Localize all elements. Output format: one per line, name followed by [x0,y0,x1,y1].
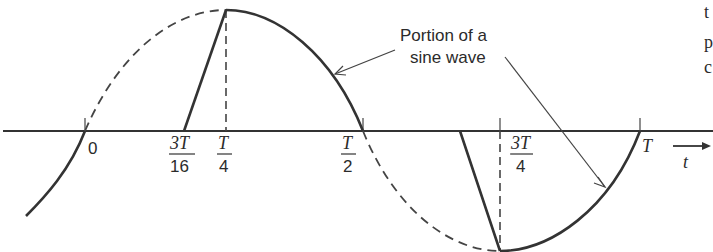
tick-label-zero: 0 [88,139,97,158]
time-axis-label: t [683,152,689,172]
annotation-pointer-left [335,50,395,74]
tick-label-3T16-num: 3T [169,133,191,153]
tick-label-3T16-den: 16 [170,157,189,176]
margin-fragment-1: t [704,2,709,22]
tick-label-T2-num: T [342,133,354,153]
time-arrow-icon [702,142,711,150]
tick-label-T2-den: 2 [343,157,352,176]
steep-fall-line [460,131,500,251]
tick-label-T: T [642,136,654,156]
tick-label-T4-num: T [218,133,230,153]
arrowhead-right-icon [594,177,605,187]
sine-solid-left [26,131,85,216]
tick-label-3T4-den: 4 [516,157,525,176]
annotation-line1: Portion of a [400,26,487,45]
annotation-line2: sine wave [410,48,486,67]
margin-fragment-2: p [704,32,713,52]
tick-label-3T4-num: 3T [510,133,532,153]
steep-rise-line [184,10,226,131]
tick-label-T4-den: 4 [219,157,228,176]
sine-wave-figure: Portion of a sine wave 0 3T 16 T 4 T 2 3… [0,0,713,252]
margin-fragment-3: c [704,57,712,77]
